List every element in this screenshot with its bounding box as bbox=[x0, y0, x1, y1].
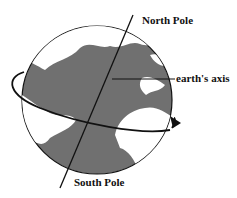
north-pole-label: North Pole bbox=[142, 14, 193, 26]
arrowhead bbox=[170, 116, 181, 128]
earths-axis-label: earth's axis bbox=[176, 72, 229, 84]
south-pole-label: South Pole bbox=[74, 176, 124, 188]
globe-illustration bbox=[0, 0, 237, 198]
earth-axis-diagram: North Pole earth's axis South Pole bbox=[0, 0, 237, 198]
